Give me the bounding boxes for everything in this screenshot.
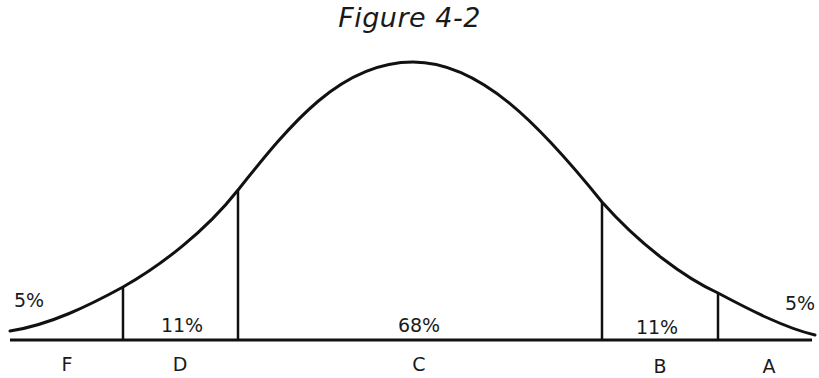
percent-label-c: 68%: [398, 314, 440, 336]
grade-label-d: D: [173, 353, 188, 375]
percent-label-f: 5%: [14, 289, 44, 311]
grade-label-a: A: [763, 355, 776, 377]
percent-label-d: 11%: [161, 314, 203, 336]
percent-label-b: 11%: [636, 316, 678, 338]
bell-curve: [10, 62, 815, 335]
grade-label-f: F: [62, 353, 73, 375]
grade-label-c: C: [412, 353, 425, 375]
grade-label-b: B: [653, 355, 666, 377]
percent-label-a: 5%: [785, 292, 815, 314]
